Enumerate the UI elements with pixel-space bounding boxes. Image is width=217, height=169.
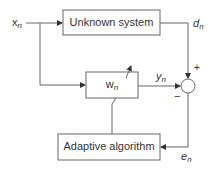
minus-sign: − xyxy=(174,90,180,102)
filter-symbol: w xyxy=(106,78,114,90)
filter-label: wn xyxy=(86,78,138,90)
plus-sign: + xyxy=(194,62,200,73)
input-signal-label: xn xyxy=(12,16,22,28)
error-signal-label: en xyxy=(181,150,192,162)
desired-signal-label: dn xyxy=(193,17,204,29)
output-signal-label: yn xyxy=(156,70,166,82)
summing-junction xyxy=(181,79,195,93)
unknown-system-label: Unknown system xyxy=(63,16,160,28)
adaptive-algorithm-label: Adaptive algorithm xyxy=(58,140,160,152)
filter-subscript: n xyxy=(114,83,118,92)
adaptation-connector xyxy=(112,98,116,134)
